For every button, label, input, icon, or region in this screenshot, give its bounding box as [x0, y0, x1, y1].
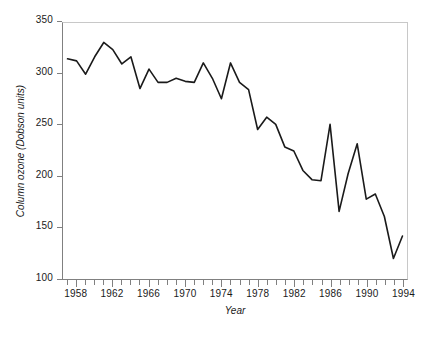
- x-tick-mark: [249, 280, 250, 285]
- x-tick-label: 1958: [64, 289, 87, 299]
- x-tick-label: 1970: [173, 289, 196, 299]
- x-tick-mark: [367, 280, 368, 287]
- x-tick-mark: [85, 280, 86, 285]
- x-tick-mark: [285, 280, 286, 285]
- x-tick-mark: [349, 280, 350, 285]
- x-tick-mark: [230, 280, 231, 285]
- x-tick-mark: [203, 280, 204, 285]
- ozone-series-line: [63, 23, 407, 279]
- y-tick-label: 350: [36, 15, 53, 25]
- x-tick-mark: [67, 280, 68, 285]
- x-tick-label: 1962: [101, 289, 124, 299]
- x-tick-label: 1978: [246, 289, 269, 299]
- x-tick-mark: [322, 280, 323, 285]
- x-tick-mark: [112, 280, 113, 287]
- x-tick-mark: [94, 280, 95, 285]
- y-tick-label: 300: [36, 67, 53, 77]
- x-tick-mark: [158, 280, 159, 285]
- y-axis-title: Column ozone (Dobson units): [14, 22, 28, 280]
- x-tick-mark: [294, 280, 295, 287]
- x-tick-mark: [258, 280, 259, 287]
- x-tick-mark: [167, 280, 168, 285]
- x-tick-mark: [303, 280, 304, 285]
- x-tick-mark: [149, 280, 150, 287]
- x-tick-mark: [340, 280, 341, 285]
- x-tick-mark: [121, 280, 122, 285]
- y-tick-label: 200: [36, 170, 53, 180]
- x-tick-mark: [331, 280, 332, 287]
- x-tick-mark: [240, 280, 241, 285]
- x-tick-mark: [376, 280, 377, 285]
- x-tick-mark: [267, 280, 268, 285]
- x-tick-mark: [194, 280, 195, 285]
- x-tick-label: 1986: [319, 289, 342, 299]
- x-axis-title: Year: [62, 305, 408, 317]
- x-tick-mark: [212, 280, 213, 285]
- x-tick-mark: [176, 280, 177, 285]
- ozone-line-chart-figure: 100150200250300350 195819621966197019741…: [0, 0, 430, 343]
- y-tick-label: 150: [36, 221, 53, 231]
- x-tick-mark: [385, 280, 386, 285]
- x-tick-label: 1966: [137, 289, 160, 299]
- x-tick-mark: [103, 280, 104, 285]
- x-tick-mark: [185, 280, 186, 287]
- x-tick-label: 1982: [283, 289, 306, 299]
- x-tick-mark: [312, 280, 313, 285]
- x-tick-label: 1990: [355, 289, 378, 299]
- x-tick-mark: [358, 280, 359, 285]
- x-tick-mark: [76, 280, 77, 287]
- x-tick-mark: [276, 280, 277, 285]
- y-tick-label: 250: [36, 118, 53, 128]
- plot-area: [62, 22, 408, 280]
- x-tick-mark: [139, 280, 140, 285]
- x-tick-mark: [403, 280, 404, 287]
- x-tick-mark: [221, 280, 222, 287]
- y-tick-label: 100: [36, 273, 53, 283]
- x-tick-mark: [394, 280, 395, 285]
- x-tick-mark: [130, 280, 131, 285]
- x-tick-label: 1974: [210, 289, 233, 299]
- x-tick-label: 1994: [392, 289, 415, 299]
